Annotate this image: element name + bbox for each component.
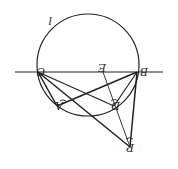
angle-mark-P [126, 138, 133, 139]
label-B: B [140, 65, 149, 78]
label-P: P [126, 141, 135, 154]
label-l: l [48, 14, 52, 27]
circle-l [37, 14, 139, 116]
segment-C-D [38, 72, 114, 106]
geometry-diagram: C E B A D P l [0, 0, 178, 169]
diagram-canvas: C E B A D P l [0, 0, 178, 169]
label-E: E [98, 61, 107, 74]
label-C: C [36, 65, 45, 78]
segment-B-P [130, 72, 137, 147]
label-D: D [111, 99, 121, 112]
label-A: A [55, 99, 64, 112]
